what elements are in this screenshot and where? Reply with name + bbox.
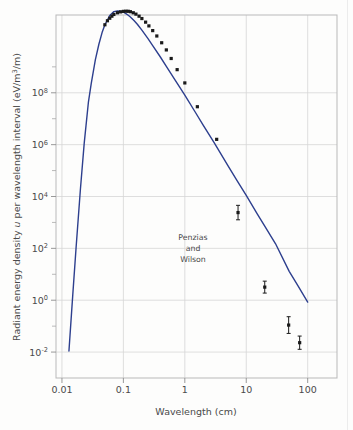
data-point-12: [134, 13, 137, 16]
y-tick-label-5: 10-2: [29, 346, 48, 357]
annotation-line-2: and: [186, 244, 201, 253]
data-point-14: [140, 17, 143, 20]
data-point-29: [298, 341, 301, 344]
y-tick-label-4: 100: [32, 294, 48, 305]
x-axis-title: Wavelength (cm): [155, 406, 236, 417]
data-point-19: [160, 41, 163, 44]
y-axis-title-mid: per wavelength interval (eV/m: [11, 73, 22, 221]
chart-svg: 0.010.1110100 10810610410210010-2 Wavele…: [0, 0, 353, 430]
data-point-16: [147, 24, 150, 27]
data-point-20: [165, 48, 168, 51]
data-point-15: [144, 21, 147, 24]
x-tick-label-0: 0.01: [51, 384, 72, 395]
annotation-line-1: Penzias: [178, 233, 207, 242]
data-point-28: [287, 323, 290, 326]
y-axis-title: Radiant energy density u per wavelength …: [11, 53, 22, 341]
x-tick-label-2: 1: [182, 384, 188, 395]
x-tick-marks: [62, 378, 308, 383]
data-point-0: [103, 23, 106, 26]
y-axis-title-lead: Radiant energy density: [11, 227, 22, 340]
data-point-21: [170, 57, 173, 60]
y-tick-label-2: 104: [32, 191, 48, 202]
y-tick-label-0: 108: [32, 87, 48, 98]
y-axis-title-tail: /m): [11, 53, 22, 69]
y-tick-label-3: 102: [32, 242, 48, 253]
data-point-24: [196, 105, 199, 108]
data-point-18: [155, 34, 158, 37]
data-point-5: [116, 11, 119, 14]
x-tick-labels: 0.010.1110100: [51, 384, 316, 395]
x-tick-label-4: 100: [299, 384, 317, 395]
y-tick-label-1: 106: [32, 139, 48, 150]
y-tick-labels: 10810610410210010-2: [29, 87, 48, 358]
data-point-23: [183, 81, 186, 84]
data-point-17: [151, 29, 154, 32]
data-point-27: [263, 286, 266, 289]
data-point-26: [236, 211, 239, 214]
annotation-line-3: Wilson: [180, 255, 206, 264]
data-point-13: [137, 15, 140, 18]
data-point-4: [112, 13, 115, 16]
data-point-10: [129, 10, 132, 13]
x-tick-label-3: 10: [240, 384, 252, 395]
data-point-6: [119, 10, 122, 13]
data-point-25: [215, 138, 218, 141]
data-point-22: [176, 68, 179, 71]
figure-container: 0.010.1110100 10810610410210010-2 Wavele…: [0, 0, 353, 430]
x-tick-label-1: 0.1: [116, 384, 131, 395]
